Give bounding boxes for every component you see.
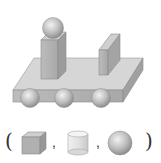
wheel-3 bbox=[92, 89, 111, 108]
wheel-2 bbox=[55, 89, 74, 108]
train-figure bbox=[0, 0, 161, 120]
wheel-1 bbox=[21, 89, 40, 108]
train-illustration bbox=[0, 0, 161, 120]
cube-icon[interactable] bbox=[21, 131, 48, 155]
open-paren: ( bbox=[5, 129, 13, 153]
sphere-icon[interactable] bbox=[107, 130, 133, 156]
separator-1: , bbox=[52, 134, 56, 150]
answer-row: ( , , ) bbox=[0, 120, 161, 163]
top-sphere bbox=[43, 18, 64, 39]
separator-2: , bbox=[96, 134, 100, 150]
cylinder-icon[interactable] bbox=[66, 130, 90, 156]
close-paren: ) bbox=[145, 129, 153, 153]
tall-block bbox=[41, 32, 66, 79]
